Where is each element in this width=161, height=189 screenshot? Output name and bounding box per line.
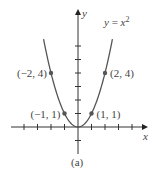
point-marker <box>103 71 107 75</box>
y-axis-label: y <box>81 7 87 19</box>
y-axis-arrow-icon <box>75 9 81 15</box>
point-label: (1, 1) <box>97 108 121 121</box>
point-label: (2, 4) <box>110 67 134 80</box>
labeled-points: (−2, 4)(2, 4)(−1, 1)(1, 1) <box>17 67 134 121</box>
point-label: (−2, 4) <box>17 67 47 80</box>
figure-caption: (a) <box>71 156 84 169</box>
x-axis-label: x <box>142 130 148 142</box>
axes <box>11 9 148 154</box>
point-label: (−1, 1) <box>30 108 60 121</box>
point-marker <box>89 111 93 115</box>
point-marker <box>62 111 66 115</box>
parabola-chart: (−2, 4)(2, 4)(−1, 1)(1, 1) y x y = x2 (a… <box>0 0 161 189</box>
point-marker <box>49 71 53 75</box>
curve-equation-label: y = x2 <box>103 15 130 28</box>
